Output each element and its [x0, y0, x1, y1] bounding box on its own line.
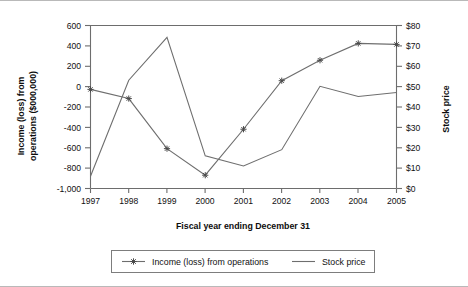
- left-axis-ticks: [85, 26, 91, 189]
- star-icon: [130, 258, 136, 264]
- y-tick-label: 0: [76, 82, 81, 92]
- y2-tick-label: $50: [406, 82, 421, 92]
- y2-tick-label: $10: [406, 163, 421, 173]
- star-icon: [240, 126, 246, 132]
- x-axis-ticks: [91, 189, 397, 194]
- star-icon: [87, 86, 93, 92]
- y-tick-label: -1,000: [57, 184, 82, 194]
- line-chart: 600 400 200 0 -200 -400 -600 -800 -1,000…: [0, 1, 468, 287]
- series-line-stock-price: [91, 37, 397, 176]
- x-tick-label: 1999: [157, 196, 176, 206]
- chart-figure: 600 400 200 0 -200 -400 -600 -800 -1,000…: [0, 0, 468, 287]
- x-tick-label: 2001: [234, 196, 253, 206]
- y-tick-label: -600: [64, 143, 81, 153]
- legend-label-income: Income (loss) from operations: [152, 257, 269, 267]
- y-tick-label: -200: [64, 102, 81, 112]
- star-icon: [355, 40, 361, 46]
- x-tick-label: 2002: [272, 196, 291, 206]
- right-axis-ticks: [397, 26, 403, 189]
- x-axis-tick-labels: 1997 1998 1999 2000 2001 2002 2003 2004 …: [81, 196, 406, 206]
- star-icon: [202, 172, 208, 178]
- legend-label-stock: Stock price: [322, 257, 366, 267]
- x-tick-label: 2004: [348, 196, 367, 206]
- x-tick-label: 1997: [81, 196, 100, 206]
- y2-tick-label: $20: [406, 143, 421, 153]
- y-axis-title-line2: operations ($000,000): [28, 71, 38, 161]
- y-tick-label: -400: [64, 123, 81, 133]
- star-icon: [393, 41, 399, 47]
- x-tick-label: 2005: [387, 196, 406, 206]
- x-axis-title: Fiscal year ending December 31: [176, 221, 310, 231]
- y2-tick-label: $0: [406, 184, 416, 194]
- y2-tick-label: $30: [406, 123, 421, 133]
- x-tick-label: 1998: [119, 196, 138, 206]
- y2-tick-label: $70: [406, 41, 421, 51]
- y2-axis-title: Stock price: [441, 85, 451, 133]
- star-icon: [279, 78, 285, 84]
- y2-tick-label: $60: [406, 61, 421, 71]
- x-tick-label: 2000: [196, 196, 215, 206]
- series-markers-income: [87, 40, 399, 178]
- star-icon: [317, 57, 323, 63]
- y-tick-label: -800: [64, 163, 81, 173]
- y-tick-label: 200: [67, 61, 82, 71]
- series-line-income: [91, 43, 397, 175]
- star-icon: [164, 146, 170, 152]
- y-axis-title-line1: Income (loss) from: [16, 76, 26, 155]
- y-tick-label: 600: [67, 21, 82, 31]
- right-axis-tick-labels: $80 $70 $60 $50 $40 $30 $20 $10 $0: [406, 21, 421, 194]
- y2-tick-label: $40: [406, 102, 421, 112]
- left-axis-tick-labels: 600 400 200 0 -200 -400 -600 -800 -1,000: [57, 21, 82, 194]
- y-tick-label: 400: [67, 41, 82, 51]
- star-icon: [126, 95, 132, 101]
- x-tick-label: 2003: [310, 196, 329, 206]
- y2-tick-label: $80: [406, 21, 421, 31]
